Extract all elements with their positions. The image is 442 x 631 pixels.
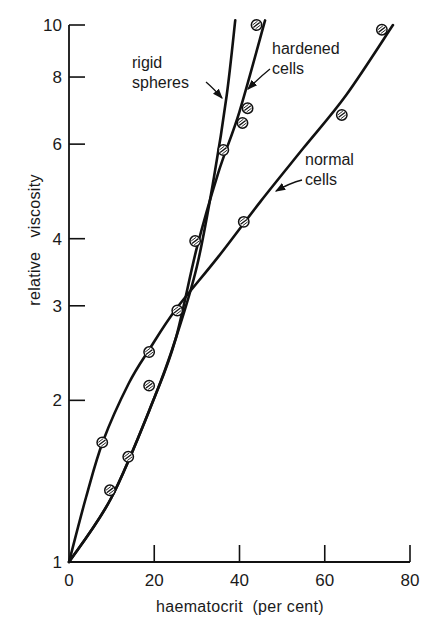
x-axis: 020406080 <box>64 545 419 590</box>
y-tick-label: 6 <box>53 135 62 154</box>
annotation-text: rigid <box>132 54 162 71</box>
series-normal-cells <box>69 25 393 562</box>
data-point-marker <box>97 437 107 447</box>
data-point-marker <box>237 118 247 128</box>
series-rigid-spheres <box>69 20 235 562</box>
data-point-marker <box>123 452 133 462</box>
annotation-text: cells <box>305 171 337 188</box>
y-axis: 12346810 <box>43 16 85 572</box>
annotation-text: spheres <box>132 74 189 91</box>
x-tick-label: 80 <box>401 571 420 590</box>
data-point-marker <box>144 347 154 357</box>
y-tick-label: 2 <box>53 391 62 410</box>
annotation-text: hardened <box>272 40 340 57</box>
annotation-normal-cells: normal cells <box>276 151 354 191</box>
x-tick-label: 0 <box>64 571 73 590</box>
data-point-marker <box>337 110 347 120</box>
x-tick-label: 40 <box>230 571 249 590</box>
y-tick-label: 1 <box>53 553 62 572</box>
y-axis-title: relative viscosity <box>26 174 43 305</box>
data-points <box>97 20 387 496</box>
y-tick-label: 10 <box>43 16 62 35</box>
data-point-marker <box>144 380 154 390</box>
annotation-text: normal <box>305 151 354 168</box>
x-tick-label: 20 <box>145 571 164 590</box>
arrow-icon <box>206 82 222 98</box>
data-point-marker <box>377 25 387 35</box>
y-tick-label: 8 <box>53 68 62 87</box>
y-tick-label: 4 <box>53 230 62 249</box>
data-point-marker <box>242 103 252 113</box>
x-axis-title: haematocrit (per cent) <box>156 598 324 615</box>
x-tick-label: 60 <box>315 571 334 590</box>
series-layer <box>69 20 393 562</box>
data-point-marker <box>251 20 261 30</box>
series-hardened-cells <box>69 20 265 562</box>
y-tick-label: 3 <box>53 297 62 316</box>
viscosity-chart: 12346810 020406080 haematocrit (per cent… <box>0 0 442 631</box>
annotation-rigid-spheres: rigid spheres <box>132 54 222 98</box>
data-point-marker <box>190 236 200 246</box>
annotation-hardened-cells: hardened cells <box>248 40 340 89</box>
data-point-marker <box>172 305 182 315</box>
data-point-marker <box>105 485 115 495</box>
annotation-text: cells <box>272 60 304 77</box>
data-point-marker <box>239 217 249 227</box>
arrow-icon <box>276 180 302 191</box>
data-point-marker <box>218 145 228 155</box>
